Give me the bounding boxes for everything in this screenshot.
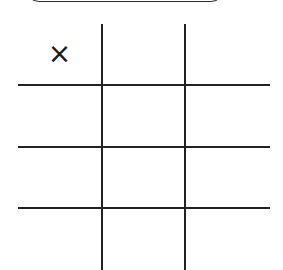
board-cell-3-0[interactable] — [18, 209, 101, 270]
board-cell-1-0[interactable] — [18, 86, 101, 146]
board-cell-3-2[interactable] — [186, 209, 270, 270]
board-cell-1-1[interactable] — [103, 86, 184, 146]
board-cell-0-1[interactable] — [103, 24, 184, 84]
board-cell-0-0[interactable]: × — [18, 24, 101, 84]
game-board: × — [0, 0, 283, 270]
board-cell-2-1[interactable] — [103, 148, 184, 207]
board-cell-2-2[interactable] — [186, 148, 270, 207]
board-cell-3-1[interactable] — [103, 209, 184, 270]
board-cell-0-2[interactable] — [186, 24, 270, 84]
x-mark-icon: × — [48, 40, 71, 68]
board-cell-1-2[interactable] — [186, 86, 270, 146]
board-cell-2-0[interactable] — [18, 148, 101, 207]
